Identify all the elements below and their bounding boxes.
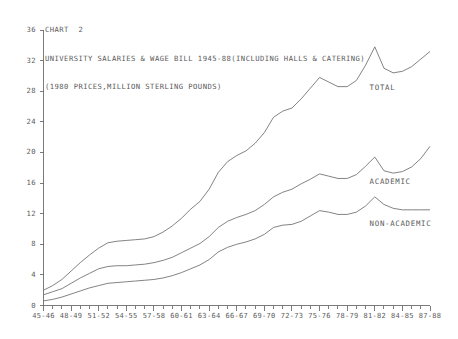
series-label-total: TOTAL bbox=[370, 83, 396, 92]
x-axis-tick-label: 60-61 bbox=[170, 312, 193, 320]
series-line-non-academic bbox=[44, 197, 431, 301]
x-axis-tick-label: 72-73 bbox=[281, 312, 304, 320]
chart-container: CHART 2 UNIVERSITY SALARIES & WAGE BILL … bbox=[0, 0, 458, 339]
x-axis-tick-label: 87-88 bbox=[419, 312, 442, 320]
x-axis-tick-label: 75-76 bbox=[308, 312, 331, 320]
y-axis-tick-label: 0 bbox=[18, 301, 36, 310]
y-axis-tick-label: 28 bbox=[18, 86, 36, 95]
y-axis-tick-label: 24 bbox=[18, 117, 36, 126]
y-axis-tick-label: 20 bbox=[18, 147, 36, 156]
x-axis-tick-label: 51-52 bbox=[87, 312, 110, 320]
x-axis-tick-label: 84-85 bbox=[391, 312, 414, 320]
y-axis-tick-label: 8 bbox=[18, 239, 36, 248]
x-axis-tick-label: 66-67 bbox=[225, 312, 248, 320]
x-axis-tick-label: 63-64 bbox=[198, 312, 221, 320]
y-axis-tick-label: 36 bbox=[18, 25, 36, 34]
x-axis-tick-label: 69-70 bbox=[253, 312, 276, 320]
x-axis-tick-label: 54-55 bbox=[115, 312, 138, 320]
series-label-non-academic: NON-ACADEMIC bbox=[370, 219, 432, 228]
x-axis-tick-label: 45-46 bbox=[32, 312, 55, 320]
y-axis-tick-label: 12 bbox=[18, 209, 36, 218]
series-label-academic: ACADEMIC bbox=[370, 177, 411, 186]
x-axis-tick-label: 48-49 bbox=[60, 312, 83, 320]
y-axis-tick-label: 4 bbox=[18, 270, 36, 279]
y-axis-tick-label: 32 bbox=[18, 56, 36, 65]
x-axis-tick-label: 81-82 bbox=[363, 312, 386, 320]
plot-area bbox=[0, 0, 458, 339]
y-axis-tick-label: 16 bbox=[18, 178, 36, 187]
x-axis-tick-label: 78-79 bbox=[336, 312, 359, 320]
x-axis-tick-label: 57-58 bbox=[143, 312, 166, 320]
